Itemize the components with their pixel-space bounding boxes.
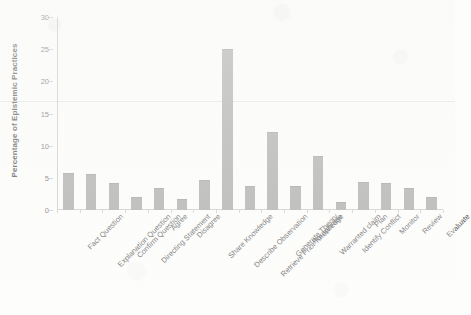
bar bbox=[154, 188, 164, 210]
bar bbox=[267, 132, 277, 210]
y-axis-tick-label: 5 bbox=[45, 173, 49, 182]
x-axis-tick-mark bbox=[443, 210, 444, 213]
plot-area: 051015202530 bbox=[57, 17, 443, 210]
y-axis-tick: 10 bbox=[53, 146, 57, 147]
bar bbox=[404, 188, 414, 210]
bar bbox=[290, 186, 300, 210]
y-axis-tick: 20 bbox=[53, 81, 57, 82]
bar bbox=[109, 183, 119, 210]
x-axis-label-text: Fact Question bbox=[86, 212, 125, 251]
y-axis-tick-label: 25 bbox=[41, 45, 49, 54]
y-axis-tick-mark bbox=[49, 210, 53, 211]
y-axis-title-label: Percentage of Epistemic Practices bbox=[10, 43, 19, 177]
y-axis-tick: 15 bbox=[53, 114, 57, 115]
x-axis-label: Monitor bbox=[398, 212, 422, 236]
y-axis-tick-label: 15 bbox=[41, 109, 49, 118]
y-axis-tick-mark bbox=[49, 114, 53, 115]
y-axis-tick-label: 20 bbox=[41, 77, 49, 86]
y-axis-line bbox=[57, 17, 58, 210]
bar bbox=[245, 186, 255, 210]
y-axis-tick-mark bbox=[49, 178, 53, 179]
bar bbox=[358, 182, 368, 210]
x-axis-label-text: Review bbox=[420, 212, 444, 236]
bar bbox=[336, 202, 346, 210]
bar bbox=[381, 183, 391, 210]
y-axis-tick-label: 30 bbox=[41, 13, 49, 22]
x-axis-label: Fact Question bbox=[86, 212, 125, 251]
x-axis-label: Review bbox=[420, 212, 444, 236]
bar bbox=[199, 180, 209, 210]
x-axis-labels: Fact QuestionExplanation QuestionConfirm… bbox=[57, 212, 443, 312]
y-axis-tick-label: 0 bbox=[45, 206, 49, 215]
x-axis-label-text: Monitor bbox=[398, 212, 422, 236]
bar bbox=[86, 174, 96, 210]
y-axis-tick-mark bbox=[49, 146, 53, 147]
y-axis-tick-label: 10 bbox=[41, 141, 49, 150]
x-axis-label: Evaluate bbox=[444, 212, 471, 239]
y-axis-tick-mark bbox=[49, 49, 53, 50]
x-axis-label-text: Evaluate bbox=[444, 212, 471, 239]
bar bbox=[177, 199, 187, 210]
y-axis-tick-mark bbox=[49, 17, 53, 18]
bar bbox=[313, 156, 323, 210]
bar bbox=[63, 173, 73, 210]
y-axis-tick: 30 bbox=[53, 17, 57, 18]
y-axis-tick: 5 bbox=[53, 178, 57, 179]
y-axis-tick: 25 bbox=[53, 49, 57, 50]
y-axis-title: Percentage of Epistemic Practices bbox=[6, 10, 22, 210]
bar bbox=[222, 49, 232, 210]
bar bbox=[131, 197, 141, 210]
y-axis-tick-mark bbox=[49, 81, 53, 82]
bar bbox=[426, 197, 436, 210]
